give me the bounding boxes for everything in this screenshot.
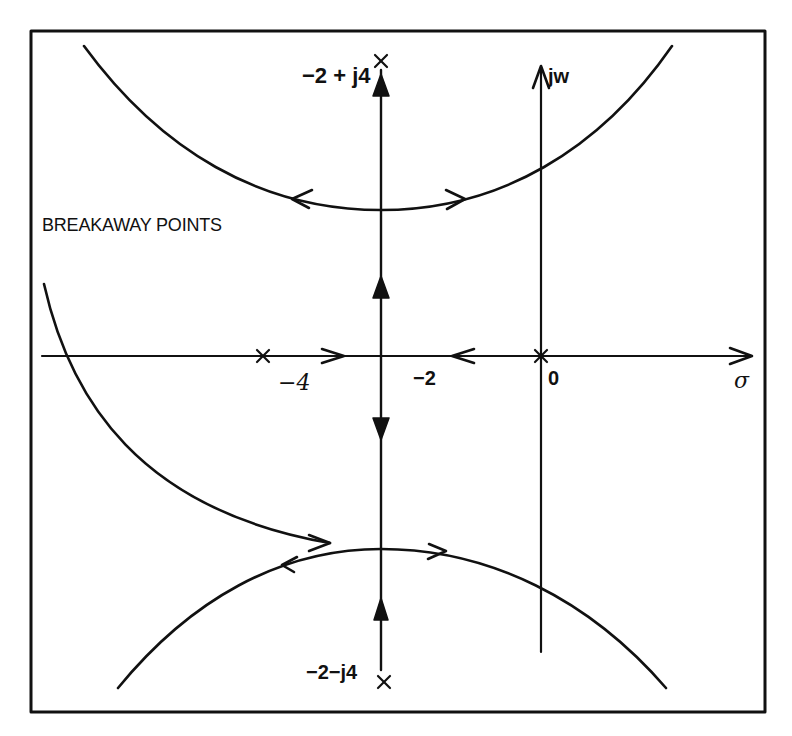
real-tick-minus-4: −4 xyxy=(278,372,310,394)
lower-pole-label: −2−j4 xyxy=(306,662,357,682)
real-tick-minus-2: −2 xyxy=(413,368,436,388)
real-tick-origin: 0 xyxy=(548,368,559,388)
vertical-down-arrow-icon xyxy=(373,418,389,440)
real-axis-label: σ xyxy=(734,370,749,392)
upper-curve-left-arrow-icon xyxy=(292,190,312,208)
vertical-bottom-arrow-icon xyxy=(374,598,388,620)
pole-upper-icon xyxy=(375,55,387,67)
figure-frame xyxy=(31,31,765,712)
root-locus-diagram xyxy=(0,0,792,736)
upper-pole-label: −2 + j4 xyxy=(302,65,371,87)
lower-curve xyxy=(118,549,666,688)
upper-curve xyxy=(84,46,672,210)
upper-curve-right-arrow-icon xyxy=(446,190,465,209)
left-curve xyxy=(44,284,330,543)
pole-lower-icon xyxy=(378,676,390,688)
imag-axis-label: jw xyxy=(548,66,569,86)
left-curve-arrow-icon xyxy=(309,535,330,551)
vertical-top-arrow-icon xyxy=(373,74,389,96)
breakaway-points-label: BREAKAWAY POINTS xyxy=(42,216,222,234)
vertical-up-arrow-icon xyxy=(373,276,389,298)
